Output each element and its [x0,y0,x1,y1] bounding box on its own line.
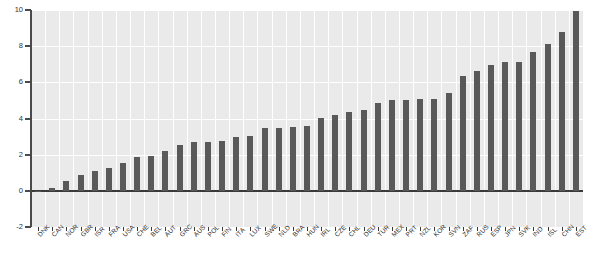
x-tick-label: ESP [489,224,503,238]
x-tick-label: ISL [546,226,558,238]
x-tick-label: CHE [135,223,150,238]
x-tick-label: CHN [560,223,575,238]
x-tick-label: CHL [347,224,361,238]
x-tick-label: GBR [79,223,94,238]
x-tick-label: CZE [333,224,347,238]
x-tick-label: ZAF [461,224,475,238]
x-tick-label: GRC [178,223,193,238]
x-tick-label: IND [531,225,544,238]
x-tick-label: SVK [517,224,531,238]
x-tick-label: TUR [376,223,391,238]
x-tick-label: FIN [220,225,233,238]
x-tick-label: HUN [305,223,320,238]
bar-chart: -20246810 DNKCANNORGBRISRFRAUSACHEBELAUT… [0,0,595,259]
x-tick-label: EST [574,224,588,238]
x-tick-label: KOR [432,223,447,238]
x-tick-label: RUS [475,223,490,238]
x-tick-label: IRL [319,226,331,238]
x-tick-label: ISR [93,225,106,238]
x-tick-label: BRA [291,223,306,238]
x-tick-label: AUS [192,223,207,238]
x-tick-label: DNK [36,223,51,238]
x-tick-label: FRA [107,224,121,238]
x-tick-label: USA [121,223,136,238]
x-tick-label: POL [206,224,220,238]
x-tick-label: MEX [390,223,405,238]
x-tick-label: SWE [263,222,279,238]
x-tick-label: ITA [234,226,246,238]
x-tick-label: NOR [64,223,79,238]
x-tick-label: NLD [277,224,291,238]
x-tick-label: AUT [163,224,177,238]
x-tick-label: DEU [362,223,377,238]
x-tick-label: NZL [418,224,432,238]
x-tick-label: CAN [50,223,65,238]
x-tick-label: SVN [447,223,462,238]
x-tick-label: JPN [503,224,517,238]
x-tick-label: BEL [149,224,163,238]
x-tick-label: LUX [248,224,262,238]
x-axis-labels: DNKCANNORGBRISRFRAUSACHEBELAUTGRCAUSPOLF… [0,0,595,259]
x-tick-label: PRT [404,224,418,238]
